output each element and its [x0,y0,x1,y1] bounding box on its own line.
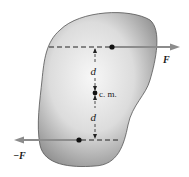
rigid-body [38,13,157,167]
force-label-left: −F [13,150,26,161]
application-point-bottom [76,137,81,142]
distance-label-bottom: d [91,111,97,123]
center-of-mass-label: c. m. [99,89,117,99]
force-label-right: F [162,54,170,65]
center-of-mass-dot [93,91,98,96]
distance-label-top: d [91,65,97,77]
couple-diagram: d d c. m. F −F [0,0,189,177]
application-point-top [109,44,114,49]
